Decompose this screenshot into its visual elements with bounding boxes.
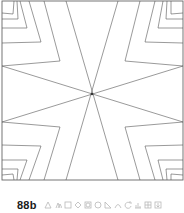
top_right-fold-line [158, 1, 163, 28]
bottom_left-fold-line [2, 145, 41, 146]
triangle-icon[interactable] [44, 201, 52, 209]
bottom_left-fold-line [20, 160, 27, 180]
top_left-fold-line [2, 61, 60, 66]
arc-icon[interactable] [114, 201, 122, 209]
center-point [91, 93, 93, 95]
download-box-icon[interactable] [154, 201, 162, 209]
bottom_right-fold-line [171, 174, 183, 175]
fold-pattern-diagram [0, 0, 184, 184]
right-triangle-icon[interactable] [104, 201, 112, 209]
top_left-fold-line [20, 1, 27, 28]
bottom_right-fold-line [145, 145, 183, 146]
diamond-icon[interactable] [74, 201, 82, 209]
top_left-fold-line [2, 42, 41, 43]
bottom_right-fold-line [125, 127, 140, 180]
icon-toolbar [44, 201, 162, 209]
frame-border [2, 1, 183, 180]
top_right-fold-line [145, 1, 155, 42]
square-icon[interactable] [64, 201, 72, 209]
center-lines [2, 1, 183, 180]
top_right-fold-line [166, 1, 167, 19]
bottom_left-fold-line [29, 146, 41, 180]
bottom_left-fold-line [2, 122, 60, 127]
bottom_right-fold-line [145, 146, 155, 180]
corner-folds [2, 1, 183, 180]
figure-label: 88b [17, 199, 37, 211]
bottom_left-fold-line [44, 127, 60, 180]
diagram-frame [2, 1, 183, 180]
bottom_left-fold-line [13, 174, 14, 180]
bottom_left-fold-line [17, 169, 18, 180]
top_left-fold-line [44, 1, 60, 61]
rotate-icon[interactable] [124, 201, 132, 209]
top_left-fold-line [17, 1, 18, 19]
top_right-fold-line [145, 42, 183, 43]
top_right-fold-line [171, 13, 183, 14]
bar-chart-icon[interactable] [134, 201, 142, 209]
top_left-fold-line [2, 13, 13, 14]
circle-square-icon[interactable] [84, 201, 92, 209]
top_left-fold-line [29, 1, 41, 42]
circle-icon[interactable] [94, 201, 102, 209]
top_right-fold-line [125, 61, 183, 66]
bottom_left-fold-line [2, 174, 13, 175]
bottom_right-fold-line [158, 160, 163, 180]
top_left-fold-line [13, 1, 14, 14]
top_right-fold-line [125, 1, 140, 61]
grid-icon[interactable] [144, 201, 152, 209]
bottom_right-fold-line [125, 122, 183, 127]
triangle-pair-icon[interactable] [54, 201, 62, 209]
bottom_right-fold-line [166, 169, 167, 180]
figure-caption: 88b [17, 199, 162, 211]
